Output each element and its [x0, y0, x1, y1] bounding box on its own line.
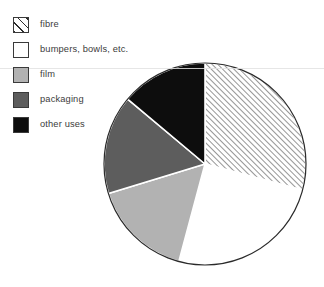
- pie-chart-figure: fibre bumpers, bowls, etc. film packagin…: [0, 0, 324, 287]
- legend: fibre bumpers, bowls, etc. film packagin…: [13, 12, 163, 137]
- legend-item-label: bumpers, bowls, etc.: [40, 44, 128, 55]
- legend-item-fibre[interactable]: fibre: [13, 12, 163, 37]
- legend-item-film[interactable]: film: [13, 62, 163, 87]
- legend-item-bumpers-bowls-etc[interactable]: bumpers, bowls, etc.: [13, 37, 163, 62]
- black-swatch-icon: [13, 117, 29, 133]
- legend-item-label: film: [40, 69, 55, 80]
- diagonal-hatch-swatch-icon: [13, 17, 29, 33]
- legend-item-other-uses[interactable]: other uses: [13, 112, 163, 137]
- legend-item-label: packaging: [40, 94, 84, 105]
- legend-item-packaging[interactable]: packaging: [13, 87, 163, 112]
- light-gray-swatch-icon: [13, 67, 29, 83]
- legend-item-label: fibre: [40, 19, 59, 30]
- dark-gray-swatch-icon: [13, 92, 29, 108]
- legend-item-label: other uses: [40, 119, 85, 130]
- white-swatch-icon: [13, 42, 29, 58]
